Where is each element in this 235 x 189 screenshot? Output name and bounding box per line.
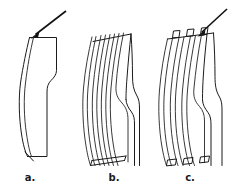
figure-canvas: a. bbox=[0, 0, 235, 189]
figure-container: a. bbox=[0, 0, 235, 189]
panel-label-b: b. bbox=[109, 172, 120, 183]
panel-label-a: a. bbox=[25, 172, 36, 183]
panel-label-c: c. bbox=[185, 172, 195, 183]
